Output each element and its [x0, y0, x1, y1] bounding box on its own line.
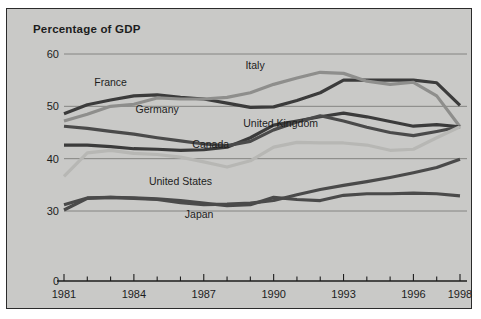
y-tick-label-0: 0	[53, 275, 59, 287]
series-label-france: France	[94, 76, 127, 88]
chart-plate: Percentage of GDP 605040300 198119841987…	[6, 8, 472, 309]
x-axis	[57, 274, 467, 281]
x-tick-label-1993: 1993	[331, 288, 355, 300]
x-tick-label-1984: 1984	[122, 288, 146, 300]
y-tick-label-30: 30	[47, 205, 59, 217]
series-label-united-states: United States	[149, 175, 212, 187]
series-label-germany: Germany	[136, 103, 180, 115]
x-tick-label-1981: 1981	[52, 288, 76, 300]
series-label-italy: Italy	[245, 59, 265, 71]
series-label-united-kingdom: United Kingdom	[243, 117, 318, 129]
x-tick-label-1987: 1987	[192, 288, 216, 300]
y-tick-label-50: 50	[47, 100, 59, 112]
series-label-canada: Canada	[192, 138, 229, 150]
y-tick-labels: 605040300	[47, 48, 59, 287]
y-tick-label-40: 40	[47, 153, 59, 165]
chart-inner: Percentage of GDP 605040300 198119841987…	[7, 9, 471, 308]
x-tick-label-1998: 1998	[448, 288, 472, 300]
data-lines	[64, 72, 460, 210]
x-tick-labels: 1981198419871990199319961998	[52, 288, 472, 300]
x-tick-label-1990: 1990	[261, 288, 285, 300]
series-line-japan	[64, 159, 460, 205]
line-chart: 605040300 1981198419871990199319961998 F…	[7, 9, 473, 310]
x-tick-label-1996: 1996	[401, 288, 425, 300]
figure-canvas: Percentage of GDP 605040300 198119841987…	[0, 0, 481, 319]
series-label-japan: Japan	[185, 208, 214, 220]
y-tick-label-60: 60	[47, 48, 59, 60]
